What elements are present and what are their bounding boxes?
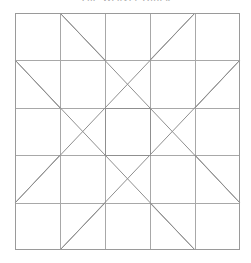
quilt-block-diagram — [0, 0, 251, 263]
block-background — [15, 13, 240, 250]
quilt-block-page: The Weaver Block — [0, 0, 251, 263]
